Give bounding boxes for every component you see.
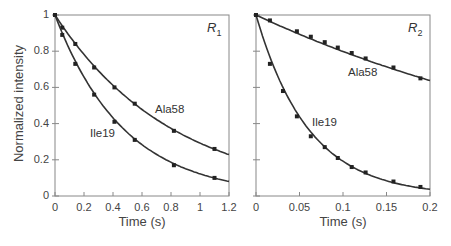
data-point [364,56,368,60]
data-point [391,180,395,184]
data-point [309,35,313,39]
x-tick-label: 0.2 [415,201,445,213]
fit-curve-ala58 [256,15,430,81]
data-point [73,42,77,46]
data-point [350,165,354,169]
data-point [133,102,137,106]
series-label-ile19-r1: Ile19 [90,127,115,139]
x-tick-label: 0.05 [285,201,315,213]
series-label-ala58-r1: Ala58 [155,103,184,115]
data-point [268,62,272,66]
data-point [254,13,258,17]
data-point [133,138,137,142]
data-point [295,29,299,33]
data-point [92,93,96,97]
panel-title-r1: R1 [207,20,221,38]
y-tick-label: 0.6 [19,80,49,92]
y-tick-label: 0.8 [19,44,49,56]
data-point [92,65,96,69]
data-point [364,170,368,174]
x-tick-label: 0.2 [69,201,99,213]
x-axis-label-right: Time (s) [283,214,403,229]
series-label-ile19-r2: Ile19 [312,116,337,128]
data-point [336,156,340,160]
x-tick-label: 1 [185,201,215,213]
fit-curve-ile19 [256,15,430,189]
data-point [268,18,272,22]
data-point [350,51,354,55]
data-point [213,147,217,151]
data-point [309,134,313,138]
data-point [336,46,340,50]
fit-curve-ile19 [55,15,229,181]
y-tick-label: 1 [19,8,49,20]
y-tick-label: 0.4 [19,117,49,129]
x-tick-label: 0.1 [328,201,358,213]
panel-title-r2: R2 [408,20,422,38]
x-tick-label: 0.6 [127,201,157,213]
y-tick-label: 0 [19,189,49,201]
x-tick-label: 0 [241,201,271,213]
data-point [323,40,327,44]
series-label-ala58-r2: Ala58 [348,66,377,78]
data-point [418,185,422,189]
data-point [73,62,77,66]
data-point [295,114,299,118]
data-point [323,145,327,149]
y-tick-label: 0.2 [19,153,49,165]
x-axis-label-left: Time (s) [82,214,202,229]
x-tick-label: 0.8 [156,201,186,213]
plot-frame-1 [55,15,229,196]
data-point [172,129,176,133]
data-point [281,89,285,93]
data-point [418,76,422,80]
x-tick-label: 0.15 [372,201,402,213]
plot-frame-2 [256,15,430,196]
data-point [391,65,395,69]
x-tick-label: 0 [40,201,70,213]
data-point [172,163,176,167]
data-point [60,33,64,37]
x-tick-label: 0.4 [98,201,128,213]
data-point [53,13,57,17]
data-point [112,85,116,89]
fit-curve-ala58 [55,15,229,155]
x-tick-label: 1.2 [214,201,244,213]
data-point [112,120,116,124]
data-point [213,176,217,180]
